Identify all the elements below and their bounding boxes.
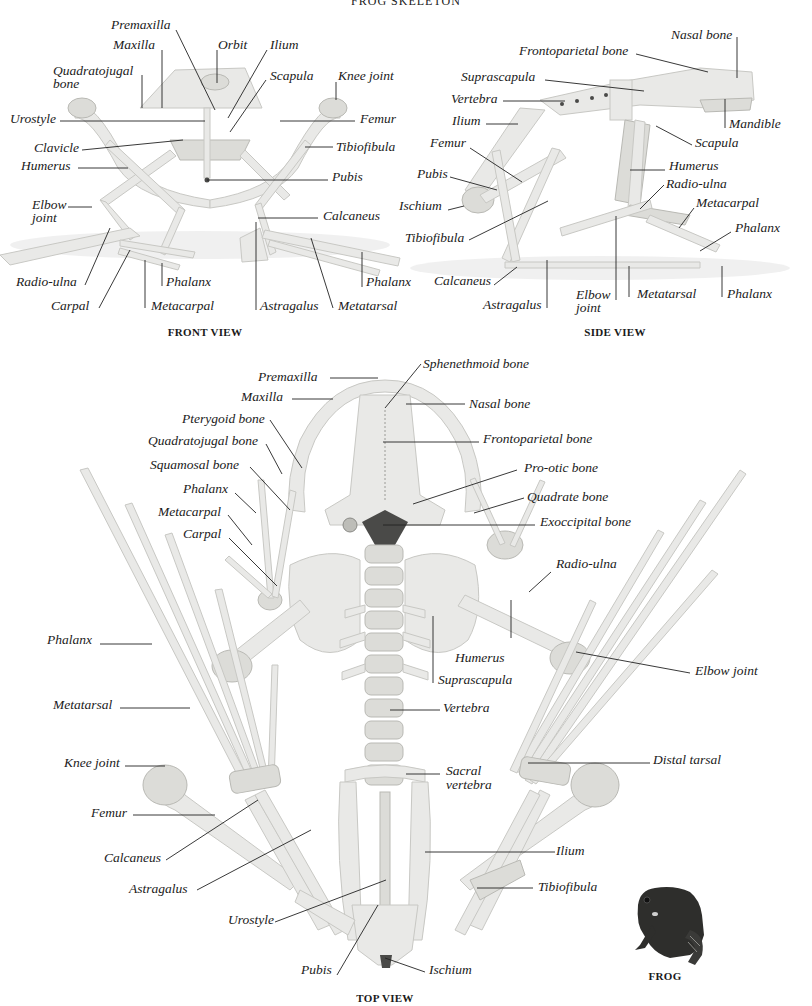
label-vertebra: Vertebra xyxy=(443,701,490,715)
label-scapula: Scapula xyxy=(695,136,739,150)
label-carpal: Carpal xyxy=(183,527,221,541)
label-femur: Femur xyxy=(360,112,396,126)
label-phalanx-hand: Phalanx xyxy=(735,221,780,235)
caption-frog: FROG xyxy=(649,970,682,982)
caption-side-view: SIDE VIEW xyxy=(584,326,646,338)
label-mandible: Mandible xyxy=(729,117,781,131)
label-urostyle: Urostyle xyxy=(228,913,274,927)
label-metacarpal: Metacarpal xyxy=(696,196,759,210)
label-tibiofibula: Tibiofibula xyxy=(405,231,464,245)
label-pubis: Pubis xyxy=(332,170,363,184)
label-ilium: Ilium xyxy=(452,114,481,128)
label-humerus: Humerus xyxy=(669,159,719,173)
label-astragalus: Astragalus xyxy=(260,299,319,313)
label-phalanx-foot: Phalanx xyxy=(366,275,411,289)
label-carpal: Carpal xyxy=(51,299,89,313)
label-pro-otic-bone: Pro-otic bone xyxy=(524,461,598,475)
label-ischium: Ischium xyxy=(429,963,472,977)
label-humerus: Humerus xyxy=(455,651,505,665)
caption-front-view: FRONT VIEW xyxy=(168,326,242,338)
label-phalanx-hand: Phalanx xyxy=(183,482,228,496)
caption-top-view: TOP VIEW xyxy=(356,992,413,1004)
label-suprascapula: Suprascapula xyxy=(461,70,535,84)
label-squamosal-bone: Squamosal bone xyxy=(150,458,239,472)
label-pubis: Pubis xyxy=(417,167,448,181)
label-astragalus: Astragalus xyxy=(129,882,188,896)
label-suprascapula: Suprascapula xyxy=(438,673,512,687)
label-calcaneus: Calcaneus xyxy=(323,209,380,223)
label-tibiofibula: Tibiofibula xyxy=(538,880,597,894)
label-pterygoid-bone: Pterygoid bone xyxy=(182,412,265,426)
label-elbow-joint-2: joint xyxy=(32,211,57,225)
label-maxilla: Maxilla xyxy=(113,38,155,52)
label-femur: Femur xyxy=(91,806,127,820)
label-frontoparietal-bone: Frontoparietal bone xyxy=(483,432,592,446)
label-quadratojugal-bone: Quadratojugal bone xyxy=(148,434,258,448)
label-sphenethmoid-bone: Sphenethmoid bone xyxy=(423,357,529,371)
label-calcaneus: Calcaneus xyxy=(434,274,491,288)
label-quadrate-bone: Quadrate bone xyxy=(527,490,608,504)
label-vertebra: Vertebra xyxy=(451,92,498,106)
label-phalanx-foot: Phalanx xyxy=(727,287,772,301)
label-ilium: Ilium xyxy=(556,844,585,858)
label-orbit: Orbit xyxy=(218,38,247,52)
label-phalanx-foot: Phalanx xyxy=(47,633,92,647)
label-sacral-vertebra-2: vertebra xyxy=(446,778,492,792)
label-frontoparietal-bone: Frontoparietal bone xyxy=(519,44,628,58)
label-metacarpal: Metacarpal xyxy=(151,299,214,313)
label-phalanx-hand: Phalanx xyxy=(166,275,211,289)
label-urostyle: Urostyle xyxy=(10,112,56,126)
label-pubis: Pubis xyxy=(301,963,332,977)
label-premaxilla: Premaxilla xyxy=(111,18,170,32)
label-nasal-bone: Nasal bone xyxy=(469,397,530,411)
label-tibiofibula: Tibiofibula xyxy=(336,140,395,154)
label-ischium: Ischium xyxy=(399,199,442,213)
label-knee-joint: Knee joint xyxy=(338,69,394,83)
label-maxilla: Maxilla xyxy=(241,390,283,404)
label-knee-joint: Knee joint xyxy=(64,756,120,770)
label-radio-ulna: Radio-ulna xyxy=(556,557,617,571)
label-elbow-joint: Elbow joint xyxy=(695,664,758,678)
label-sacral-vertebra: Sacral xyxy=(446,764,481,778)
label-astragalus: Astragalus xyxy=(483,298,542,312)
label-calcaneus: Calcaneus xyxy=(104,851,161,865)
label-premaxilla: Premaxilla xyxy=(258,370,317,384)
label-scapula: Scapula xyxy=(270,69,314,83)
label-nasal-bone: Nasal bone xyxy=(671,28,732,42)
frog-icon xyxy=(635,887,704,965)
label-metacarpal: Metacarpal xyxy=(158,505,221,519)
label-exoccipital-bone: Exoccipital bone xyxy=(540,515,631,529)
label-metatarsal: Metatarsal xyxy=(53,698,112,712)
label-metatarsal: Metatarsal xyxy=(338,299,397,313)
label-metatarsal: Metatarsal xyxy=(637,287,696,301)
label-ilium: Ilium xyxy=(270,38,299,52)
label-humerus: Humerus xyxy=(21,159,71,173)
label-radio-ulna: Radio-ulna xyxy=(666,177,727,191)
label-femur: Femur xyxy=(430,136,466,150)
label-radio-ulna: Radio-ulna xyxy=(16,275,77,289)
label-distal-tarsal: Distal tarsal xyxy=(653,753,721,767)
label-clavicle: Clavicle xyxy=(34,141,79,155)
label-quadratojugal-bone-2: bone xyxy=(53,77,79,91)
label-elbow-joint-2: joint xyxy=(576,301,601,315)
